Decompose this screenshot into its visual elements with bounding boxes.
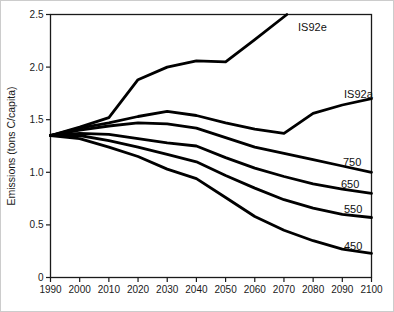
y-axis-tick-label: 2.0	[30, 62, 44, 73]
x-axis-tick-label: 2070	[273, 284, 296, 295]
series-label-IS92e: IS92e	[298, 21, 327, 33]
y-axis-tick-label: 0	[38, 272, 44, 283]
x-axis-tick-label: 2060	[244, 284, 267, 295]
x-axis-tick-label: 2080	[302, 284, 325, 295]
plot-frame	[51, 15, 372, 278]
x-axis-tick-label: 2000	[69, 284, 92, 295]
emissions-figure: 1990200020102020203020402050206020702080…	[0, 0, 394, 312]
series-line-IS92e	[51, 15, 287, 136]
series-label-750: 750	[343, 156, 361, 168]
x-axis-tick-label: 2010	[98, 284, 121, 295]
x-axis-tick-label: 1990	[39, 284, 62, 295]
x-axis-tick-label: 2040	[185, 284, 208, 295]
x-axis-tick-label: 2050	[214, 284, 237, 295]
y-axis-tick-label: 1.0	[30, 167, 44, 178]
x-axis-tick-label: 2100	[360, 284, 383, 295]
series-label-550: 550	[344, 203, 362, 215]
y-axis-tick-label: 2.5	[30, 9, 44, 20]
series-line-650	[51, 133, 372, 193]
emissions-chart: 1990200020102020203020402050206020702080…	[1, 1, 394, 312]
series-line-750	[51, 123, 372, 172]
series-label-IS92a: IS92a	[344, 88, 374, 100]
series-label-650: 650	[341, 178, 359, 190]
series-line-IS92a	[51, 99, 372, 136]
y-axis-tick-label: 1.5	[30, 114, 44, 125]
x-axis-tick-label: 2030	[156, 284, 179, 295]
x-axis-tick-label: 2020	[127, 284, 150, 295]
x-axis-tick-label: 2090	[331, 284, 354, 295]
series-label-450: 450	[344, 240, 362, 252]
y-axis-tick-label: 0.5	[30, 219, 44, 230]
y-axis-title: Emissions (tons C/capita)	[5, 86, 17, 205]
series-line-550	[51, 136, 372, 218]
